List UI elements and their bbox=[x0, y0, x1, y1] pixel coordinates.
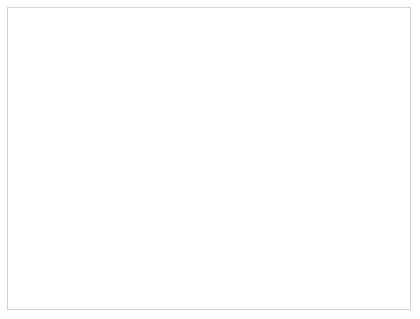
figure-border bbox=[7, 7, 411, 310]
chart-root: 0501001502002503003504001900191019201930… bbox=[0, 0, 420, 319]
